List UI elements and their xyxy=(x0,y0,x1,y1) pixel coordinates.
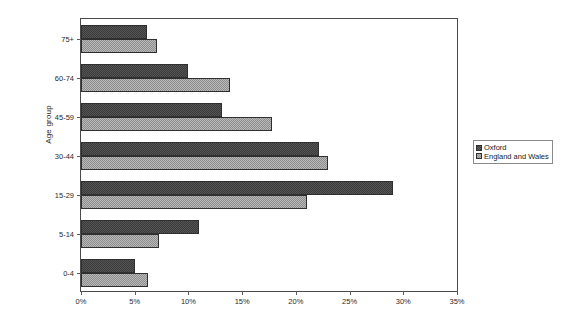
bar-oxford xyxy=(81,64,188,78)
y-axis-tick-label: 5-14 xyxy=(59,230,74,239)
bar-pair xyxy=(81,103,457,131)
bar-oxford xyxy=(81,181,393,195)
bar-england-and-wales xyxy=(81,234,159,248)
x-axis-tick xyxy=(188,291,189,295)
bar-england-and-wales xyxy=(81,117,272,131)
bar-england-and-wales xyxy=(81,195,307,209)
x-axis-tick-label: 30% xyxy=(396,297,411,306)
bar-group: 0-4 xyxy=(81,254,457,293)
bar-oxford xyxy=(81,259,135,273)
y-axis-tick-label: 15-29 xyxy=(55,191,74,200)
x-axis-tick xyxy=(81,291,82,295)
y-axis-tick-label: 45-59 xyxy=(55,112,74,121)
x-axis-tick-label: 20% xyxy=(288,297,303,306)
bar-pair xyxy=(81,181,457,209)
bar-england-and-wales xyxy=(81,39,157,53)
bar-group: 75+ xyxy=(81,19,457,58)
legend-swatch-icon xyxy=(476,145,482,151)
bar-group: 30-44 xyxy=(81,136,457,175)
x-axis-tick-label: 15% xyxy=(235,297,250,306)
x-axis-tick xyxy=(242,291,243,295)
bar-pair xyxy=(81,142,457,170)
plot-area: 75+60-7445-5930-4415-295-140-4 0%5%10%15… xyxy=(80,18,458,292)
bar-oxford xyxy=(81,25,147,39)
x-axis-tick xyxy=(350,291,351,295)
x-axis-tick-label: 25% xyxy=(342,297,357,306)
x-axis-tick xyxy=(457,291,458,295)
bar-pair xyxy=(81,259,457,287)
bar-england-and-wales xyxy=(81,156,328,170)
legend-item: England and Wales xyxy=(476,153,549,161)
x-axis-tick-label: 10% xyxy=(181,297,196,306)
legend-swatch-icon xyxy=(476,153,482,159)
legend-item-label: Oxford xyxy=(484,144,507,152)
x-axis-tick xyxy=(403,291,404,295)
x-axis-tick-label: 35% xyxy=(449,297,464,306)
bar-oxford xyxy=(81,103,222,117)
x-axis-tick xyxy=(296,291,297,295)
bar-pair xyxy=(81,220,457,248)
bar-group: 5-14 xyxy=(81,215,457,254)
bar-pair xyxy=(81,25,457,53)
bar-oxford xyxy=(81,142,319,156)
bar-group: 45-59 xyxy=(81,97,457,136)
bar-group: 15-29 xyxy=(81,176,457,215)
y-axis-tick-label: 0-4 xyxy=(63,269,74,278)
bar-england-and-wales xyxy=(81,78,230,92)
bar-england-and-wales xyxy=(81,273,148,287)
x-axis-tick-label: 5% xyxy=(129,297,140,306)
x-axis-tick xyxy=(135,291,136,295)
y-axis-tick-label: 30-44 xyxy=(55,151,74,160)
bar-chart-figure: Age group 75+60-7445-5930-4415-295-140-4… xyxy=(0,0,579,325)
x-axis-tick-label: 0% xyxy=(76,297,87,306)
chart-legend: OxfordEngland and Wales xyxy=(473,140,553,164)
legend-item: Oxford xyxy=(476,144,549,152)
y-axis-tick-label: 60-74 xyxy=(55,73,74,82)
bar-group: 60-74 xyxy=(81,58,457,97)
y-axis-tick-label: 75+ xyxy=(61,34,74,43)
bar-oxford xyxy=(81,220,199,234)
legend-item-label: England and Wales xyxy=(484,153,549,161)
y-axis-title: Age group xyxy=(44,65,53,185)
bar-pair xyxy=(81,64,457,92)
